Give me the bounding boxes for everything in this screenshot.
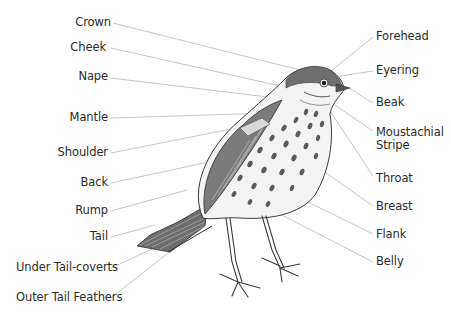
label-under-tail-coverts: Under Tail-coverts [0,261,108,274]
label-mantle: Mantle [40,111,108,124]
leader-line-rump [111,190,187,211]
leader-line-moustachial-stripe [329,101,373,131]
label-beak: Beak [376,96,404,109]
label-eyering: Eyering [376,64,419,77]
leader-line-eyering [334,71,373,77]
label-nape: Nape [55,70,108,83]
label-shoulder: Shoulder [30,146,108,159]
leader-line-tail [111,225,155,237]
label-tail: Tail [55,230,108,243]
label-moustachial-stripe: Moustachial Stripe [376,126,444,152]
leader-line-forehead [331,37,373,71]
label-outer-tail-feathers: Outer Tail Feathers [0,291,112,304]
label-cheek: Cheek [55,41,106,54]
bird-anatomy-diagram: Crown Cheek Nape Mantle Shoulder Back Ru… [0,0,451,323]
leader-line-breast [322,170,373,206]
label-belly: Belly [376,255,404,268]
label-rump: Rump [55,204,108,217]
leader-line-crown [113,23,300,70]
leader-line-belly [278,213,373,262]
label-moustachial-line2: Stripe [376,139,444,152]
label-back: Back [55,176,108,189]
bird-legs [220,216,300,297]
label-flank: Flank [376,228,406,241]
label-forehead: Forehead [376,30,429,43]
leader-line-throat [328,108,373,176]
leader-line-nape [111,78,276,98]
label-throat: Throat [376,172,413,185]
label-crown: Crown [55,16,111,29]
label-breast: Breast [376,200,412,213]
bird-body [198,66,350,218]
leader-line-beak [349,88,373,103]
